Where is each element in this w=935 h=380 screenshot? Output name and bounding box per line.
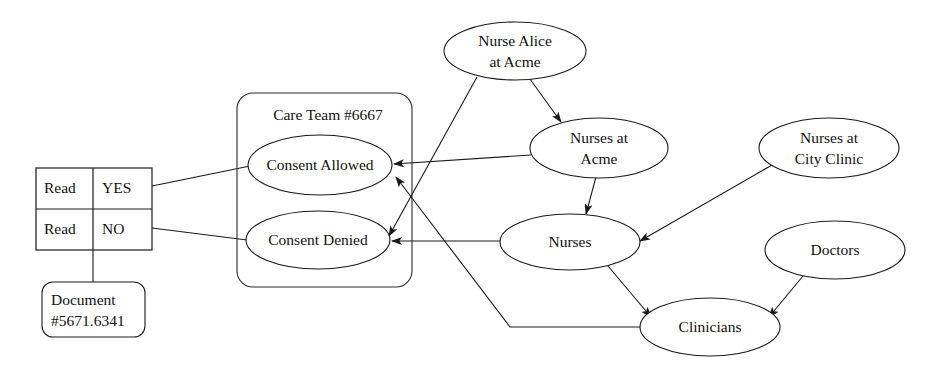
edge-nurse-alice-to-nurses-at-acme [527,75,561,122]
care-team-label: Care Team #6667 [273,106,383,123]
nurses-at-city-clinic-label-line1: Nurses at [800,129,859,146]
read-permission-table[interactable]: Read YES Read NO [36,168,152,250]
node-doctors[interactable]: Doctors [765,221,905,279]
nurses-at-acme-ellipse[interactable] [530,118,668,178]
document-label-line2: #5671.6341 [51,312,125,329]
node-consent-allowed[interactable]: Consent Allowed [248,135,392,195]
nurses-at-acme-label-line1: Nurses at [570,129,629,146]
nurse-alice-at-acme-label-line2: at Acme [489,53,540,70]
node-nurse-alice-at-acme[interactable]: Nurse Alice at Acme [444,22,586,80]
document-node[interactable]: Document #5671.6341 [42,282,145,337]
edge-nurses-to-clinicians [608,266,651,317]
node-nurses[interactable]: Nurses [500,214,640,270]
diagram-canvas: Care Team #6667 Consent Allowed Consent … [0,0,935,380]
node-consent-denied[interactable]: Consent Denied [246,211,390,269]
edge-nurses-at-acme-to-nurses [586,177,596,214]
cell-action-read-yes: Read [44,179,76,196]
consent-allowed-label: Consent Allowed [266,156,373,173]
edge-doctors-to-clinicians [769,270,808,317]
clinicians-label: Clinicians [679,318,742,335]
cell-action-read-no: Read [44,220,76,237]
nurses-at-city-clinic-label-line2: City Clinic [795,150,864,167]
cell-value-yes: YES [102,179,131,196]
diagram-svg: Care Team #6667 Consent Allowed Consent … [0,0,935,380]
node-nurses-at-city-clinic[interactable]: Nurses at City Clinic [759,118,899,178]
document-label-line1: Document [51,291,116,308]
doctors-label: Doctors [810,241,859,258]
edge-nurses-at-city-clinic-to-nurses [640,165,772,241]
edge-nurses-at-acme-to-consent-allowed [394,155,531,164]
nurses-label: Nurses [548,233,591,250]
consent-denied-label: Consent Denied [268,231,368,248]
node-nurses-at-acme[interactable]: Nurses at Acme [530,118,668,178]
edge-read-yes-to-consent-allowed [152,166,250,186]
cell-value-no: NO [102,220,124,237]
edge-read-no-to-consent-denied [152,228,247,240]
edge-nurse-alice-to-consent-denied [389,77,477,236]
nurses-at-city-clinic-ellipse[interactable] [759,118,899,178]
nurse-alice-at-acme-label-line1: Nurse Alice [478,32,552,49]
nurses-at-acme-label-line2: Acme [580,150,617,167]
node-clinicians[interactable]: Clinicians [640,298,780,356]
